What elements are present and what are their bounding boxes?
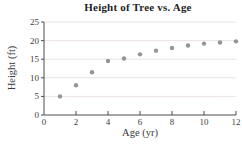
- data-point: [122, 56, 126, 60]
- data-point: [218, 40, 222, 44]
- x-tick-label: 2: [74, 117, 79, 127]
- data-point: [74, 83, 78, 87]
- x-tick-label: 12: [232, 117, 241, 127]
- x-axis-label: Age (yr): [44, 127, 236, 138]
- data-point: [106, 59, 110, 63]
- data-point: [58, 94, 62, 98]
- x-tick-label: 8: [170, 117, 175, 127]
- x-tick-label: 6: [138, 117, 143, 127]
- y-tick-label: 25: [30, 17, 40, 27]
- y-tick-label: 0: [35, 110, 40, 120]
- data-point: [154, 48, 158, 52]
- data-point: [170, 46, 174, 50]
- data-point: [202, 41, 206, 45]
- y-tick-label: 20: [30, 36, 40, 46]
- x-tick-label: 4: [106, 117, 111, 127]
- y-tick-label: 10: [30, 73, 40, 83]
- data-point: [90, 70, 94, 74]
- data-point: [186, 43, 190, 47]
- tree-height-chart: Height of Tree vs. Age Height (ft) 05101…: [0, 0, 242, 157]
- x-tick-label: 10: [200, 117, 210, 127]
- y-tick-label: 15: [30, 54, 40, 64]
- x-tick-label: 0: [42, 117, 47, 127]
- data-point: [138, 52, 142, 56]
- data-point: [234, 39, 238, 43]
- y-tick-label: 5: [35, 91, 40, 101]
